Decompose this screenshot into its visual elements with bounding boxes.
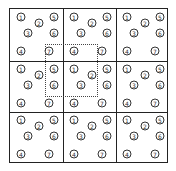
numbered-node: 2 — [141, 70, 150, 79]
numbered-node: 5 — [156, 116, 165, 125]
numbered-node: 4 — [17, 150, 26, 159]
numbered-node: 6 — [156, 80, 165, 89]
grid-cell: 1235647 — [116, 61, 169, 113]
numbered-node: 1 — [70, 116, 79, 125]
numbered-node: 4 — [17, 98, 26, 107]
numbered-node: 3 — [24, 132, 33, 141]
numbered-node: 1 — [123, 116, 132, 125]
numbered-node: 6 — [50, 29, 59, 38]
dotted-unit-cell-outline — [45, 44, 98, 97]
numbered-node: 3 — [77, 132, 86, 141]
numbered-node: 1 — [17, 64, 26, 73]
numbered-node: 3 — [130, 80, 139, 89]
numbered-node: 5 — [50, 13, 59, 22]
grid-cell: 1235647 — [116, 9, 169, 61]
numbered-node: 3 — [24, 80, 33, 89]
numbered-node: 7 — [98, 47, 107, 56]
numbered-node: 6 — [50, 132, 59, 141]
numbered-node: 5 — [50, 116, 59, 125]
numbered-node: 4 — [123, 47, 132, 56]
numbered-node: 3 — [130, 29, 139, 38]
numbered-node: 6 — [103, 132, 112, 141]
numbered-node: 5 — [103, 64, 112, 73]
numbered-node: 7 — [98, 98, 107, 107]
numbered-node: 5 — [103, 116, 112, 125]
numbered-node: 1 — [70, 13, 79, 22]
numbered-node: 6 — [103, 29, 112, 38]
numbered-node: 2 — [88, 122, 97, 131]
numbered-node: 2 — [35, 19, 44, 28]
numbered-node: 7 — [45, 98, 54, 107]
numbered-node: 1 — [17, 13, 26, 22]
numbered-node: 1 — [17, 116, 26, 125]
numbered-node: 5 — [156, 13, 165, 22]
numbered-node: 7 — [151, 47, 160, 56]
numbered-node: 5 — [156, 64, 165, 73]
numbered-node: 2 — [141, 19, 150, 28]
numbered-node: 1 — [123, 13, 132, 22]
periodic-cell-grid: 1235647123564712356471235647123564712356… — [9, 8, 168, 163]
numbered-node: 6 — [103, 80, 112, 89]
numbered-node: 7 — [45, 150, 54, 159]
numbered-node: 4 — [70, 150, 79, 159]
grid-cell: 1235647 — [10, 112, 63, 164]
grid-cell: 1235647 — [63, 112, 116, 164]
numbered-node: 4 — [70, 98, 79, 107]
numbered-node: 2 — [141, 122, 150, 131]
numbered-node: 2 — [35, 122, 44, 131]
numbered-node: 4 — [123, 150, 132, 159]
numbered-node: 5 — [103, 13, 112, 22]
numbered-node: 3 — [130, 132, 139, 141]
numbered-node: 6 — [156, 132, 165, 141]
numbered-node: 7 — [98, 150, 107, 159]
numbered-node: 3 — [24, 29, 33, 38]
numbered-node: 4 — [123, 98, 132, 107]
numbered-node: 2 — [88, 19, 97, 28]
numbered-node: 7 — [151, 150, 160, 159]
numbered-node: 3 — [77, 29, 86, 38]
numbered-node: 6 — [156, 29, 165, 38]
numbered-node: 1 — [123, 64, 132, 73]
numbered-node: 2 — [35, 70, 44, 79]
grid-cell: 1235647 — [116, 112, 169, 164]
numbered-node: 4 — [17, 47, 26, 56]
numbered-node: 7 — [151, 98, 160, 107]
